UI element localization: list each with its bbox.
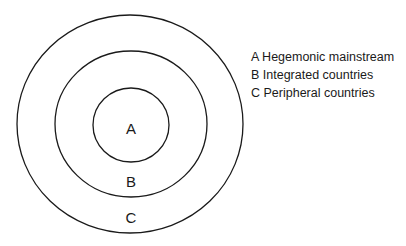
label-b: B xyxy=(126,173,136,190)
concentric-circle-diagram: A B C xyxy=(0,0,260,246)
label-a: A xyxy=(126,120,136,137)
legend-item-c: C Peripheral countries xyxy=(251,84,394,102)
legend-item-a: A Hegemonic mainstream xyxy=(251,48,394,66)
legend: A Hegemonic mainstream B Integrated coun… xyxy=(251,48,394,102)
legend-item-b: B Integrated countries xyxy=(251,66,394,84)
label-c: C xyxy=(126,209,137,226)
